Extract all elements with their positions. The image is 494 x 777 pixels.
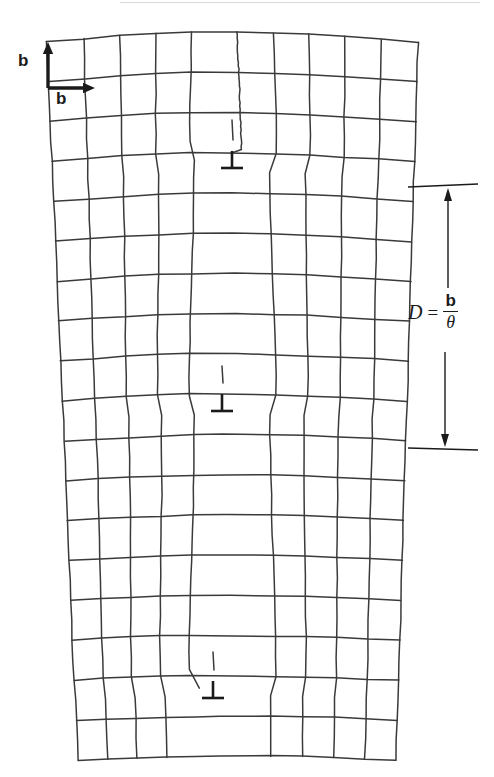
burgers-vector-horizontal-label: b bbox=[56, 90, 66, 107]
equals-sign: = bbox=[427, 303, 438, 322]
crystal-lattice-diagram bbox=[0, 0, 494, 777]
dislocation-middle bbox=[211, 394, 233, 411]
burgers-over-theta-fraction: b θ bbox=[443, 292, 458, 332]
tilt-grain-boundary-figure: b b D = b θ bbox=[0, 0, 494, 777]
fraction-numerator-b: b bbox=[443, 292, 457, 311]
dislocation-spacing-annotation: D = b θ bbox=[408, 292, 458, 332]
dislocation-bottom bbox=[202, 681, 224, 698]
spacing-symbol-D: D bbox=[408, 302, 422, 322]
burgers-vector-vertical-label: b bbox=[18, 52, 28, 69]
fraction-denominator-theta: θ bbox=[444, 312, 457, 332]
